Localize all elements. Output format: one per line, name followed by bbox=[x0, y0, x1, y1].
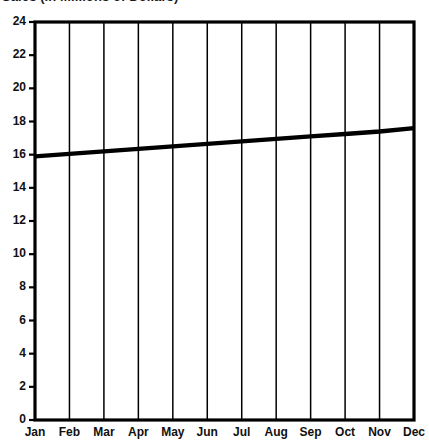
x-axis-tick-label: Nov bbox=[368, 425, 391, 439]
x-axis-tick-label: Jan bbox=[25, 425, 46, 439]
x-axis-tick-label: Feb bbox=[59, 425, 80, 439]
x-axis-tick-label: Jul bbox=[233, 425, 250, 439]
x-axis-tick-label: Oct bbox=[335, 425, 355, 439]
x-axis-tick-label: Jun bbox=[197, 425, 218, 439]
x-axis-tick-label: Apr bbox=[128, 425, 149, 439]
x-axis-tick-label: Mar bbox=[93, 425, 114, 439]
x-axis-tick-label: Aug bbox=[265, 425, 288, 439]
x-axis-tick-label: Dec bbox=[403, 425, 425, 439]
sales-trend-chart: Sales (in Millions of Dollars) 024681012… bbox=[0, 0, 429, 443]
x-axis-tick-label: May bbox=[161, 425, 184, 439]
x-axis-labels: JanFebMarAprMayJunJulAugSepOctNovDec bbox=[0, 0, 429, 443]
x-axis-tick-label: Sep bbox=[300, 425, 322, 439]
